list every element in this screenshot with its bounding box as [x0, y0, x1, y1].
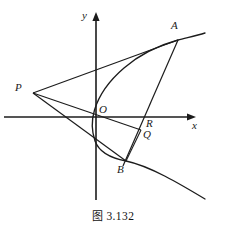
segment-Q-B: [126, 130, 141, 161]
segment-A-R-B: [123, 40, 178, 166]
label-y-axis: y: [82, 10, 87, 21]
label-point-P: P: [15, 82, 22, 93]
figure-caption-cjk: 图: [92, 210, 103, 223]
segment-P-B: [33, 93, 126, 161]
label-x-axis: x: [192, 120, 197, 131]
geometry-figure: [0, 0, 226, 230]
label-point-A: A: [171, 20, 178, 31]
segment-P-A: [33, 40, 178, 93]
label-point-O: O: [99, 104, 107, 115]
label-point-Q: Q: [143, 129, 151, 140]
figure-caption-number: 3.132: [106, 210, 134, 222]
figure-caption: 图 3.132: [0, 207, 226, 223]
segment-P-O-Q: [33, 93, 141, 130]
label-point-B: B: [117, 164, 124, 175]
